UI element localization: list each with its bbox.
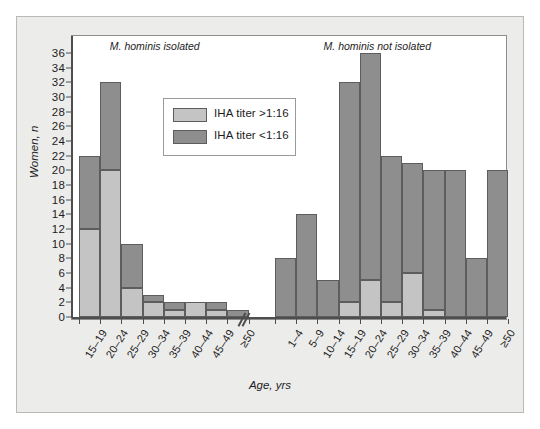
x-axis-line xyxy=(72,317,506,319)
bar-stack xyxy=(79,156,100,317)
y-axis-tick-label: 0 xyxy=(58,311,65,323)
x-axis-tick-mark xyxy=(487,319,488,324)
y-axis-tick-mark xyxy=(66,67,72,68)
bar-segment-high-titer xyxy=(100,170,121,317)
y-axis-tick-label: 14 xyxy=(52,208,65,220)
bar-segment-high-titer xyxy=(381,302,402,317)
x-axis-tick-mark xyxy=(206,319,207,324)
y-axis-tick-label: 34 xyxy=(52,62,65,74)
y-axis-tick-mark xyxy=(66,170,72,171)
bar-segment-low-titer xyxy=(100,82,121,170)
x-axis-tick-mark xyxy=(402,319,403,324)
x-axis-tick-mark xyxy=(185,319,186,324)
y-axis-tick-mark xyxy=(66,111,72,112)
bar-segment-low-titer xyxy=(466,258,487,317)
y-axis-tick-mark xyxy=(66,258,72,259)
bar-stack xyxy=(466,258,487,317)
y-axis-tick-label: 6 xyxy=(58,267,65,279)
y-axis-tick-mark xyxy=(66,317,72,318)
bar-segment-low-titer xyxy=(402,163,423,273)
legend-swatch-high xyxy=(173,108,207,122)
bar-segment-low-titer xyxy=(121,244,142,288)
x-axis-tick-mark xyxy=(121,319,122,324)
legend-swatch-low xyxy=(173,130,207,144)
bar-segment-low-titer xyxy=(296,214,317,317)
legend-label: IHA titer >1:16 xyxy=(214,107,289,119)
y-axis-tick-mark xyxy=(66,229,72,230)
y-axis-tick-label: 18 xyxy=(52,179,65,191)
bar-stack xyxy=(206,302,227,317)
y-axis-title: Women, n xyxy=(28,126,40,178)
y-axis-tick-label: 10 xyxy=(52,238,65,250)
bar-segment-high-titer xyxy=(360,280,381,317)
bar-segment-high-titer xyxy=(402,273,423,317)
y-axis-tick-label: 22 xyxy=(52,150,65,162)
bar-segment-low-titer xyxy=(143,295,164,302)
y-axis-tick-label: 12 xyxy=(52,223,65,235)
group-caption-left: M. hominis isolated xyxy=(110,40,200,52)
bar-segment-high-titer xyxy=(164,310,185,317)
x-axis-tick-mark xyxy=(381,319,382,324)
y-axis-tick-mark xyxy=(66,82,72,83)
bar-segment-low-titer xyxy=(79,156,100,229)
bar-stack xyxy=(339,82,360,317)
y-axis-tick-label: 28 xyxy=(52,106,65,118)
x-axis-tick-mark xyxy=(360,319,361,324)
x-axis-tick-mark xyxy=(466,319,467,324)
y-axis-tick-mark xyxy=(66,273,72,274)
legend-label: IHA titer <1:16 xyxy=(214,129,289,141)
x-axis-tick-mark xyxy=(275,319,276,324)
x-axis-tick-mark xyxy=(445,319,446,324)
y-axis-tick-mark xyxy=(66,126,72,127)
bar-segment-high-titer xyxy=(206,310,227,317)
bar-segment-low-titer xyxy=(487,170,508,317)
bar-stack xyxy=(121,244,142,317)
bar-stack xyxy=(381,156,402,317)
y-axis-tick-mark xyxy=(66,53,72,54)
bar-segment-low-titer xyxy=(423,170,444,309)
y-axis-tick-mark xyxy=(66,199,72,200)
figure-root: 024681012141618202224262830323436 15–192… xyxy=(0,0,540,429)
bar-segment-high-titer xyxy=(121,288,142,317)
x-axis-tick-mark xyxy=(508,319,509,324)
y-axis-tick-label: 26 xyxy=(52,120,65,132)
bar-stack xyxy=(360,53,381,317)
bar-segment-low-titer xyxy=(445,170,466,317)
y-axis-tick-label: 24 xyxy=(52,135,65,147)
y-axis-tick-mark xyxy=(66,287,72,288)
y-axis-tick-mark xyxy=(66,141,72,142)
bar-stack xyxy=(100,82,121,317)
x-axis-tick-mark xyxy=(143,319,144,324)
y-axis-tick-label: 4 xyxy=(58,282,65,294)
plot-area: 024681012141618202224262830323436 15–192… xyxy=(72,36,506,319)
y-axis-line xyxy=(71,36,73,318)
bar-stack xyxy=(487,170,508,317)
y-axis-tick-label: 20 xyxy=(52,164,65,176)
bar-stack xyxy=(275,258,296,317)
y-axis-tick-label: 16 xyxy=(52,194,65,206)
axis-break-icon xyxy=(239,313,253,326)
x-axis-tick-mark xyxy=(296,319,297,324)
bar-segment-low-titer xyxy=(339,82,360,302)
bar-segment-low-titer xyxy=(206,302,227,309)
bar-segment-low-titer xyxy=(317,280,338,317)
y-axis-tick-label: 30 xyxy=(52,91,65,103)
group-caption-right: M. hominis not isolated xyxy=(324,40,431,52)
bar-segment-low-titer xyxy=(164,302,185,309)
bar-segment-low-titer xyxy=(381,156,402,303)
bar-stack xyxy=(423,170,444,317)
x-axis-tick-mark xyxy=(79,319,80,324)
bar-segment-low-titer xyxy=(275,258,296,317)
legend: IHA titer >1:16IHA titer <1:16 xyxy=(163,98,296,156)
bar-stack xyxy=(164,302,185,317)
bar-segment-high-titer xyxy=(143,302,164,317)
x-axis-tick-mark xyxy=(227,319,228,324)
y-axis-tick-mark xyxy=(66,155,72,156)
x-axis-tick-mark xyxy=(339,319,340,324)
bar-segment-high-titer xyxy=(185,302,206,317)
y-axis-tick-mark xyxy=(66,214,72,215)
y-axis-tick-mark xyxy=(66,302,72,303)
y-axis-tick-label: 32 xyxy=(52,76,65,88)
y-axis-tick-label: 36 xyxy=(52,47,65,59)
bar-stack xyxy=(317,280,338,317)
